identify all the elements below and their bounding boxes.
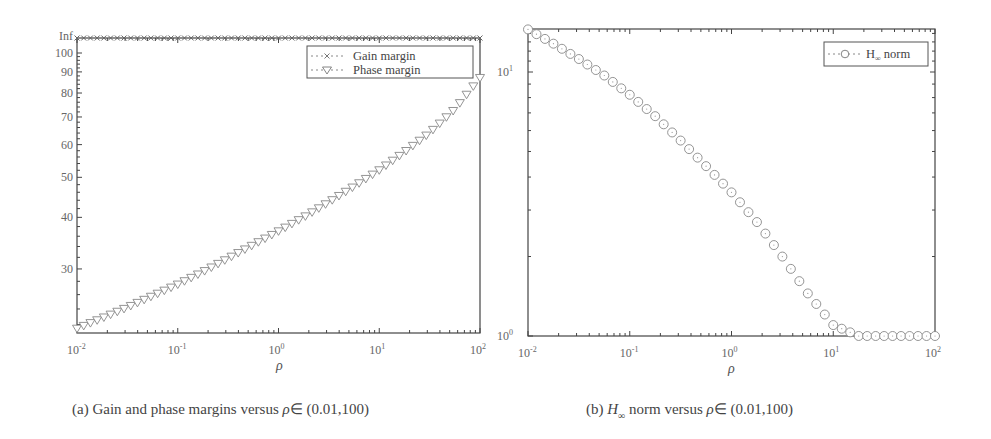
caption-a-text: (a) Gain and phase margins versus	[72, 401, 283, 417]
y-tick-label: 70	[61, 110, 73, 124]
legend-phase-margin: Phase margin	[353, 63, 421, 77]
y-tick-label: 50	[61, 170, 73, 184]
plot-b-xlabel: ρ	[727, 361, 735, 376]
plot-a: Inf10090807060504030 10-210-1100101102 ρ…	[55, 29, 486, 373]
y-tick-label: 80	[61, 86, 73, 100]
plot-b-axes-box	[528, 29, 935, 336]
x-tick-label: 10-1	[620, 345, 639, 360]
x-tick-label: 10-2	[67, 342, 86, 357]
y-tick-label: 30	[61, 262, 73, 276]
x-tick-label: 10-1	[168, 342, 187, 357]
y-tick-label: 101	[497, 64, 513, 79]
caption-b-range: ∈ (0.01,100)	[714, 401, 793, 417]
y-tick-label: 40	[61, 210, 73, 224]
y-tick-label: 100	[497, 328, 513, 343]
circle-marker-icon	[841, 50, 849, 58]
legend-gain-margin: Gain margin	[353, 49, 416, 63]
caption-a-rho: ρ	[283, 401, 290, 417]
x-tick-label: 101	[823, 345, 839, 360]
plot-a-legend: Gain margin Phase margin	[307, 46, 473, 78]
y-tick-label: 100	[55, 46, 73, 60]
y-tick-label: Inf	[59, 29, 73, 43]
x-tick-label: 10-2	[518, 345, 537, 360]
hinf-norm-series	[524, 25, 940, 341]
x-tick-label: 100	[269, 342, 285, 357]
caption-b-sub: ∞	[618, 410, 625, 421]
caption-b: (b) H∞ norm versus ρ∈ (0.01,100)	[586, 400, 793, 418]
plot-b-legend: H∞ norm	[824, 42, 928, 66]
plot-a-xlabel: ρ	[275, 358, 283, 373]
phase-margin-series	[73, 74, 485, 332]
caption-b-text: (b)	[586, 401, 607, 417]
y-tick-label: 60	[61, 138, 73, 152]
plot-a-axes-box	[77, 38, 480, 333]
figure-canvas: Inf10090807060504030 10-210-1100101102 ρ…	[0, 0, 991, 439]
caption-b-rho: ρ	[706, 401, 713, 417]
caption-a-range: ∈ (0.01,100)	[290, 401, 369, 417]
x-tick-label: 102	[925, 345, 941, 360]
x-tick-label: 100	[722, 345, 738, 360]
x-tick-label: 102	[470, 342, 486, 357]
plot-b: 101100 10-210-1100101102 ρ H∞ norm	[497, 25, 941, 376]
caption-b-mid: norm versus	[625, 401, 706, 417]
caption-a: (a) Gain and phase margins versus ρ∈ (0.…	[72, 400, 369, 418]
x-tick-label: 101	[369, 342, 385, 357]
y-tick-label: 90	[61, 65, 73, 79]
plot-a-y-ticks: Inf10090807060504030	[55, 29, 82, 325]
plot-b-y-ticks: 101100	[497, 33, 935, 343]
legend-hinf-norm: H∞ norm	[866, 47, 911, 63]
caption-b-h: H	[607, 401, 618, 417]
